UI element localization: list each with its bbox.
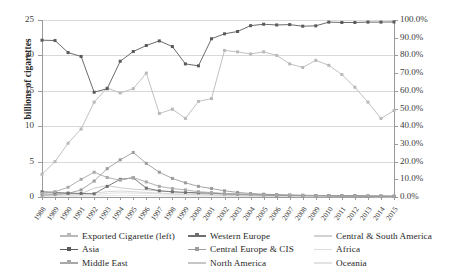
series-marker [93, 192, 96, 195]
legend-marker-icon [188, 231, 206, 240]
legend-marker-icon [60, 231, 78, 240]
series-marker [80, 55, 83, 58]
series-marker [379, 117, 382, 120]
series-marker [119, 60, 122, 63]
legend-label: North America [210, 258, 266, 268]
series-marker [119, 91, 122, 94]
series-marker [158, 39, 161, 42]
series-marker [132, 87, 135, 90]
series-marker [132, 176, 135, 179]
series-marker [158, 185, 161, 188]
series-marker [171, 187, 174, 190]
series-marker [210, 191, 213, 194]
series-marker [184, 117, 187, 120]
legend-marker-icon [314, 245, 332, 254]
series-marker [145, 180, 148, 183]
series-marker [366, 195, 369, 198]
series-marker [54, 160, 57, 163]
series-marker [80, 192, 83, 195]
series-marker [275, 194, 278, 197]
series-marker [145, 72, 148, 75]
legend-item-oceania[interactable]: Oceania [314, 258, 444, 268]
series-marker [197, 64, 200, 67]
series-marker [262, 50, 265, 53]
series-marker [80, 188, 83, 191]
series-marker [353, 86, 356, 89]
series-marker [301, 66, 304, 69]
series-marker [327, 64, 330, 67]
series-marker [171, 45, 174, 48]
legend-item-asia[interactable]: Asia [60, 244, 188, 254]
series-marker [171, 190, 174, 193]
series-marker [223, 32, 226, 35]
series-marker [145, 162, 148, 165]
series-marker [93, 101, 96, 104]
legend-item-exported-cigarette-left[interactable]: Exported Cigarette (left) [60, 231, 188, 241]
series-marker [93, 91, 96, 94]
series-marker [262, 23, 265, 26]
series-marker [54, 190, 57, 193]
legend-item-north-america[interactable]: North America [188, 258, 314, 268]
series-marker [41, 39, 44, 42]
legend-item-middle-east[interactable]: Middle East [60, 258, 188, 268]
series-marker [158, 189, 161, 192]
legend-label: Western Europe [210, 231, 270, 241]
series-asia [41, 20, 396, 93]
series-marker [210, 187, 213, 190]
series-exported-cigarette-left [41, 49, 396, 176]
series-marker [41, 173, 44, 176]
series-marker [327, 21, 330, 24]
series-marker [353, 195, 356, 198]
series-marker [93, 180, 96, 183]
series-marker [210, 97, 213, 100]
series-marker [67, 186, 70, 189]
series-marker [340, 73, 343, 76]
series-line [42, 50, 394, 174]
series-marker [366, 21, 369, 24]
series-marker [223, 192, 226, 195]
series-marker [288, 23, 291, 26]
series-marker [184, 181, 187, 184]
series-marker [249, 52, 252, 55]
series-marker [67, 142, 70, 145]
legend-item-central-south-america[interactable]: Central & South America [314, 231, 444, 241]
legend-label: Central & South America [336, 231, 432, 241]
series-marker [314, 24, 317, 27]
legend-marker-icon [314, 258, 332, 267]
legend-item-western-europe[interactable]: Western Europe [188, 231, 314, 241]
legend-marker-icon [314, 231, 332, 240]
series-marker [393, 195, 396, 198]
series-marker [132, 151, 135, 154]
legend-item-central-europe-cis[interactable]: Central Europe & CIS [188, 244, 314, 254]
series-marker [340, 194, 343, 197]
legend-label: Exported Cigarette (left) [82, 231, 175, 241]
series-marker [171, 108, 174, 111]
series-marker [80, 178, 83, 181]
series-marker [275, 54, 278, 57]
series-marker [158, 171, 161, 174]
series-marker [119, 158, 122, 161]
legend-item-africa[interactable]: Africa [314, 244, 444, 254]
legend-marker-icon [60, 245, 78, 254]
series-marker [236, 50, 239, 53]
series-marker [54, 39, 57, 42]
series-marker [379, 21, 382, 24]
series-central-europe-cis [41, 151, 396, 198]
series-marker [106, 176, 109, 179]
legend-marker-icon [188, 245, 206, 254]
chart-legend: Exported Cigarette (left)Western EuropeC… [60, 229, 450, 270]
series-marker [93, 171, 96, 174]
series-marker [288, 62, 291, 65]
series-marker [171, 177, 174, 180]
series-marker [41, 192, 44, 195]
series-marker [158, 112, 161, 115]
series-marker [210, 37, 213, 40]
series-marker [249, 24, 252, 27]
series-marker [197, 185, 200, 188]
series-marker [327, 194, 330, 197]
series-marker [184, 188, 187, 191]
series-marker [184, 62, 187, 65]
series-marker [393, 20, 396, 23]
series-marker [67, 51, 70, 54]
chart-container: billions of cigarettes 0510152025 0.0%10… [0, 0, 459, 276]
